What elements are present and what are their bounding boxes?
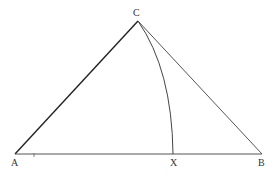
segment-ac	[15, 21, 138, 154]
label-b: B	[258, 157, 265, 168]
triangle-diagram: C A X B	[0, 0, 277, 177]
label-a: A	[11, 157, 19, 168]
arc-cx	[138, 21, 173, 154]
label-c: C	[133, 7, 140, 18]
label-x: X	[170, 157, 178, 168]
segment-cb	[138, 21, 262, 154]
